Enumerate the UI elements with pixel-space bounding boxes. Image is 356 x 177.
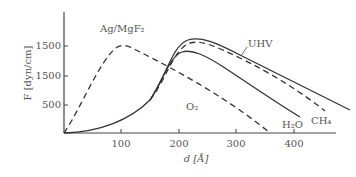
label-h2o: H₂O — [282, 119, 303, 130]
label-uhv: UHV — [248, 38, 273, 49]
x-tick-label: 300 — [226, 138, 245, 149]
curve-uhv — [64, 39, 350, 133]
y-axis-label: F [dyn/cm] — [22, 45, 33, 100]
uhv-pointer — [241, 47, 247, 56]
label-o2: O₂ — [186, 101, 198, 112]
x-tick-label: 200 — [169, 138, 188, 149]
y-tick-label: 1500 — [36, 70, 61, 81]
y-tick-label: 500 — [42, 99, 61, 110]
curve-ag-mgf2 — [64, 45, 270, 133]
label-ag-mgf2: Ag/MgF₂ — [99, 23, 145, 34]
x-axis-label: d [Å] — [184, 153, 209, 164]
y-tick-label: 1500 — [36, 40, 61, 51]
x-tick-label: 100 — [111, 138, 130, 149]
label-ch4: CH₄ — [311, 115, 331, 126]
force-distance-chart: 1500 1500 500 100 200 300 400 d [Å] F [d… — [0, 0, 356, 177]
x-tick-label: 400 — [284, 138, 303, 149]
curve-h2o — [150, 51, 300, 117]
